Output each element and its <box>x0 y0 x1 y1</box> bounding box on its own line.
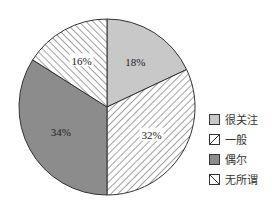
legend: 很关注 一般 偶尔 无所谓 <box>209 109 258 189</box>
legend-swatch-hatch-back-icon <box>209 174 220 185</box>
legend-label: 很关注 <box>225 111 258 127</box>
legend-label: 无所谓 <box>225 171 258 187</box>
legend-label: 偶尔 <box>225 151 247 167</box>
legend-item-very-concerned: 很关注 <box>209 109 258 129</box>
slice-value-label: 32% <box>141 129 161 141</box>
legend-item-indifferent: 无所谓 <box>209 169 258 189</box>
slice-value-label: 16% <box>71 55 91 67</box>
legend-item-average: 一般 <box>209 129 258 149</box>
pie-slices <box>19 19 195 195</box>
legend-swatch-solid-light-icon <box>209 114 220 125</box>
legend-swatch-hatch-forward-icon <box>209 134 220 145</box>
legend-label: 一般 <box>225 131 247 147</box>
slice-value-label: 18% <box>125 56 145 68</box>
legend-swatch-solid-dark-icon <box>209 154 220 165</box>
slice-value-label: 34% <box>51 126 71 138</box>
legend-item-occasionally: 偶尔 <box>209 149 258 169</box>
